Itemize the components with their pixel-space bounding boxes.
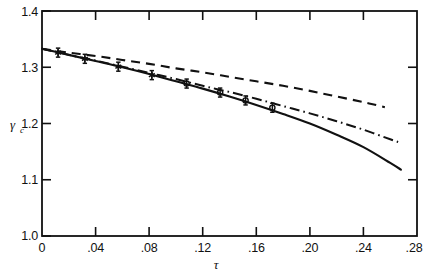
x-axis-title: τ bbox=[214, 257, 220, 272]
data-point-group bbox=[55, 48, 275, 112]
chart-figure: 1.4 1.3 1.2 1.1 1.0 0 .04 .08 .12 .16 .2… bbox=[0, 0, 428, 273]
dashed-curve bbox=[42, 49, 385, 108]
y-tick-label-1.0: 1.0 bbox=[21, 229, 38, 243]
x-tick-label-28: .28 bbox=[406, 241, 423, 255]
x-tick-label-08: .08 bbox=[141, 241, 158, 255]
y-tick-label-1.4: 1.4 bbox=[21, 5, 38, 19]
x-tick-label-24: .24 bbox=[355, 241, 372, 255]
y-tick-labels: 1.4 1.3 1.2 1.1 1.0 bbox=[21, 5, 38, 243]
solid-curve bbox=[42, 49, 401, 170]
x-tick-label-0: 0 bbox=[39, 241, 46, 255]
plot-frame bbox=[42, 11, 417, 236]
x-tick-label-04: .04 bbox=[87, 241, 104, 255]
y-tick-label-1.3: 1.3 bbox=[21, 61, 38, 75]
x-tick-label-12: .12 bbox=[194, 241, 211, 255]
x-tick-label-16: .16 bbox=[248, 241, 265, 255]
x-axis-title-tau: τ bbox=[214, 257, 220, 272]
y-axis-title-subscript: c bbox=[20, 125, 24, 135]
curve-group bbox=[42, 49, 401, 170]
x-tick-labels: 0 .04 .08 .12 .16 .20 .24 .28 bbox=[39, 241, 423, 255]
x-tick-label-20: .20 bbox=[302, 241, 319, 255]
y-axis-title-gamma: γ bbox=[10, 117, 16, 132]
y-tick-label-1.1: 1.1 bbox=[21, 173, 38, 187]
x-axis-ticks bbox=[96, 11, 364, 236]
y-axis-ticks bbox=[42, 11, 417, 236]
